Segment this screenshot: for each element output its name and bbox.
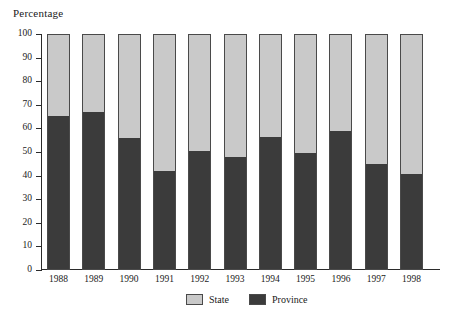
bar-segment-province[interactable] [83,112,104,269]
bar-segment-state[interactable] [48,35,69,116]
bar-segment-state[interactable] [330,35,351,131]
stacked-bar-chart: Percentage 0102030405060708090100 198819… [0,0,449,321]
bar-segment-province[interactable] [260,137,281,269]
bar-stack[interactable] [259,34,282,270]
y-axis-tick-label: 20 [8,218,32,228]
bar-segment-province[interactable] [330,131,351,269]
bar-stack[interactable] [188,34,211,270]
y-axis-tick-label: 70 [8,100,32,110]
bar-segment-state[interactable] [119,35,140,138]
bar-segment-province[interactable] [48,116,69,269]
chart-legend: StateProvince [186,294,308,305]
bar-segment-state[interactable] [154,35,175,171]
y-axis-tick [36,270,42,271]
y-axis-tick-label: 80 [8,76,32,86]
y-axis-tick-label: 90 [8,53,32,63]
x-axis-tick-label: 1998 [389,274,435,285]
bar-stack[interactable] [400,34,423,270]
bar-stack[interactable] [118,34,141,270]
bar-stack[interactable] [82,34,105,270]
bar-stack[interactable] [153,34,176,270]
legend-label: Province [272,294,308,305]
bar-segment-province[interactable] [154,171,175,269]
y-axis-tick-label: 100 [8,29,32,39]
bar-segment-province[interactable] [189,151,210,269]
bar-stack[interactable] [365,34,388,270]
y-axis-tick-label: 0 [8,265,32,275]
bar-segment-state[interactable] [83,35,104,112]
bar-segment-state[interactable] [260,35,281,137]
bar-segment-state[interactable] [401,35,422,174]
bar-segment-province[interactable] [401,174,422,269]
legend-item[interactable]: State [186,294,229,305]
y-axis-title: Percentage [13,7,63,19]
bar-stack[interactable] [294,34,317,270]
bar-segment-state[interactable] [225,35,246,157]
bar-segment-province[interactable] [225,157,246,269]
bar-segment-state[interactable] [366,35,387,164]
bar-stack[interactable] [329,34,352,270]
y-axis-tick-label: 10 [8,241,32,251]
legend-swatch-province [249,294,266,305]
legend-label: State [209,294,229,305]
y-axis-tick-label: 30 [8,194,32,204]
bar-segment-province[interactable] [119,138,140,269]
bar-stack[interactable] [47,34,70,270]
bar-stack[interactable] [224,34,247,270]
y-axis-tick-label: 40 [8,171,32,181]
bar-segment-state[interactable] [295,35,316,153]
plot-area [41,34,440,270]
bar-segment-province[interactable] [366,164,387,269]
legend-swatch-state [186,294,203,305]
bar-segment-state[interactable] [189,35,210,151]
bar-segment-province[interactable] [295,153,316,269]
y-axis-tick-label: 50 [8,147,32,157]
y-axis-tick-label: 60 [8,123,32,133]
legend-item[interactable]: Province [249,294,308,305]
